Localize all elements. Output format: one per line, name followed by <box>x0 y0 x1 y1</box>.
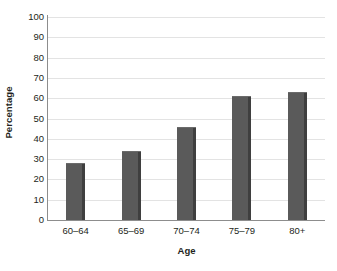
bar-slot <box>232 17 251 220</box>
bar[interactable] <box>177 127 196 220</box>
bars-group <box>48 17 325 220</box>
bar-slot <box>177 17 196 220</box>
bar[interactable] <box>232 96 251 220</box>
y-axis-tick-label: 20 <box>4 174 44 184</box>
x-axis-tick-label: 80+ <box>270 226 325 236</box>
y-axis-tick-label: 100 <box>4 12 44 22</box>
bar[interactable] <box>122 151 141 220</box>
bar-side-shading <box>82 163 85 220</box>
y-axis-tick-label: 60 <box>4 93 44 103</box>
x-axis-baseline <box>48 220 325 221</box>
y-axis-tick-label: 80 <box>4 53 44 63</box>
x-axis-tick-label: 60–64 <box>48 226 103 236</box>
bar-slot <box>66 17 85 220</box>
bar-top-shading <box>232 96 251 97</box>
x-axis-tick-label: 75–79 <box>214 226 269 236</box>
bar-side-shading <box>248 96 251 220</box>
y-axis-tick-label: 30 <box>4 154 44 164</box>
bar-chart: Percentage 0102030405060708090100 60–646… <box>0 0 337 271</box>
bar-top-shading <box>122 151 141 152</box>
bar[interactable] <box>66 163 85 220</box>
plot-area <box>48 17 325 220</box>
x-axis-title: Age <box>48 246 325 256</box>
bar-side-shading <box>138 151 141 220</box>
y-axis-tick-label: 70 <box>4 73 44 83</box>
bar-top-shading <box>66 163 85 164</box>
x-axis-tick-labels: 60–6465–6970–7475–7980+ <box>48 226 325 240</box>
bar-top-shading <box>288 92 307 93</box>
y-axis-tick-label: 40 <box>4 134 44 144</box>
bar-slot <box>288 17 307 220</box>
x-axis-tick-label: 65–69 <box>103 226 158 236</box>
bar-side-shading <box>304 92 307 220</box>
y-axis-tick-label: 50 <box>4 114 44 124</box>
y-axis-tick-label: 10 <box>4 195 44 205</box>
y-axis-tick-label: 90 <box>4 32 44 42</box>
bar-side-shading <box>193 127 196 220</box>
y-axis-tick-labels: 0102030405060708090100 <box>0 17 44 220</box>
bar-slot <box>122 17 141 220</box>
bar-top-shading <box>177 127 196 128</box>
bar[interactable] <box>288 92 307 220</box>
x-axis-tick-label: 70–74 <box>159 226 214 236</box>
y-axis-tick-label: 0 <box>4 215 44 225</box>
